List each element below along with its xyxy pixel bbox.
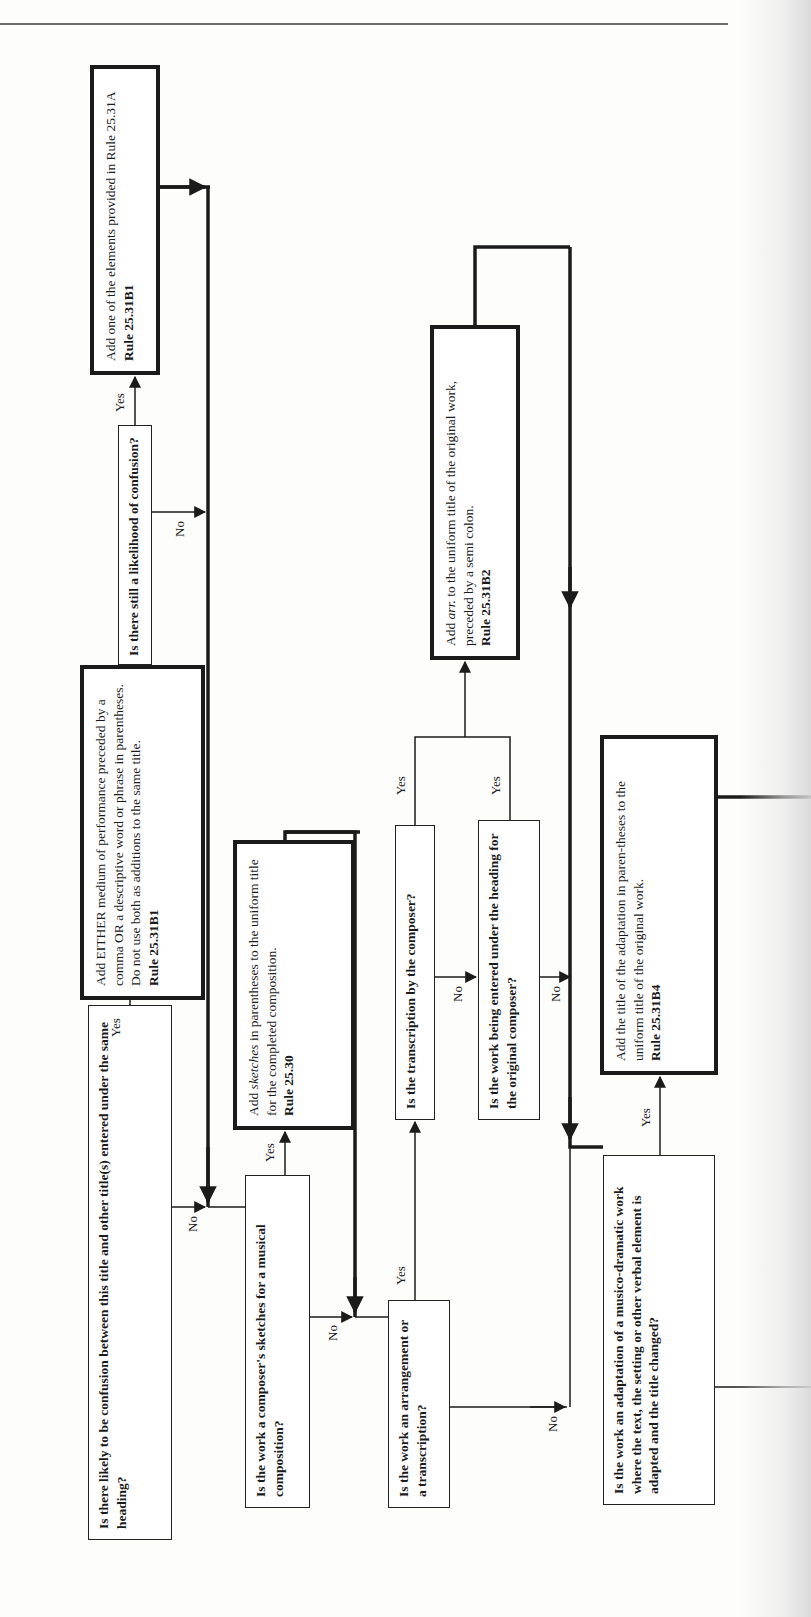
action-a1-text: Add EITHER medium of performance precede… xyxy=(93,684,143,986)
label-q3-yes: Yes xyxy=(262,1143,278,1162)
label-q4-yes: Yes xyxy=(393,1266,409,1285)
question-q5-text: Is the transcription by the composer? xyxy=(403,893,418,1109)
label-q2-yes: Yes xyxy=(112,393,128,412)
question-q4-text: Is the work an arrangement or a transcri… xyxy=(396,1320,429,1497)
question-q7: Is the work an adaptation of a musico-dr… xyxy=(603,1155,715,1505)
question-q5: Is the transcription by the composer? xyxy=(395,825,435,1120)
label-q5-yes: Yes xyxy=(393,776,409,795)
action-a3: Add sketches in parentheses to the unifo… xyxy=(233,840,355,1130)
action-a5: Add the title of the adaptation in paren… xyxy=(600,735,718,1075)
label-q6-yes: Yes xyxy=(488,776,504,795)
action-a3-rule: Rule 25.30 xyxy=(280,854,298,1116)
label-q2-no: No xyxy=(172,521,188,537)
question-q3: Is the work a composer's sketches for a … xyxy=(245,1175,310,1508)
action-a4: Add arr. to the uniform title of the ori… xyxy=(430,325,520,660)
action-a2-text: Add one of the elements provided in Rule… xyxy=(103,91,118,361)
label-q3-no: No xyxy=(325,1325,341,1341)
question-q7-text: Is the work an adaptation of a musico-dr… xyxy=(611,1186,661,1494)
label-q7-yes: Yes xyxy=(638,1108,654,1127)
question-q2: Is there still a likelihood of confusion… xyxy=(118,425,152,665)
action-a4-text-before: Add xyxy=(443,619,458,646)
question-q1-text: Is there likely to be confusion between … xyxy=(96,1022,129,1529)
label-q6-no: No xyxy=(548,986,564,1002)
question-q2-text: Is there still a likelihood of confusion… xyxy=(126,437,141,656)
label-q1-yes: Yes xyxy=(108,1018,124,1037)
action-a1: Add EITHER medium of performance precede… xyxy=(80,665,205,1000)
page-binding-shadow xyxy=(740,0,811,1617)
action-a4-text-italic: arr. xyxy=(443,600,458,619)
label-q1-no: No xyxy=(185,1216,201,1232)
action-a5-text: Add the title of the adaptation in paren… xyxy=(613,781,646,1061)
action-a2: Add one of the elements provided in Rule… xyxy=(90,65,160,375)
label-q4-no: No xyxy=(545,1416,561,1432)
action-a5-rule: Rule 25.31B4 xyxy=(647,749,665,1061)
action-a3-text-before: Add xyxy=(246,1089,261,1116)
question-q6-text: Is the work being entered under the head… xyxy=(486,834,519,1109)
question-q6: Is the work being entered under the head… xyxy=(478,820,540,1120)
flowchart-page: Is there likely to be confusion between … xyxy=(0,0,811,1617)
label-q5-no: No xyxy=(450,986,466,1002)
action-a3-text-italic: sketches xyxy=(246,1044,261,1089)
question-q1: Is there likely to be confusion between … xyxy=(88,1005,172,1540)
action-a1-rule: Rule 25.31B1 xyxy=(145,679,163,986)
question-q4: Is the work an arrangement or a transcri… xyxy=(388,1300,450,1508)
action-a2-rule: Rule 25.31B1 xyxy=(120,79,138,361)
action-a4-rule: Rule 25.31B2 xyxy=(477,339,495,646)
question-q3-text: Is the work a composer's sketches for a … xyxy=(253,1224,286,1497)
